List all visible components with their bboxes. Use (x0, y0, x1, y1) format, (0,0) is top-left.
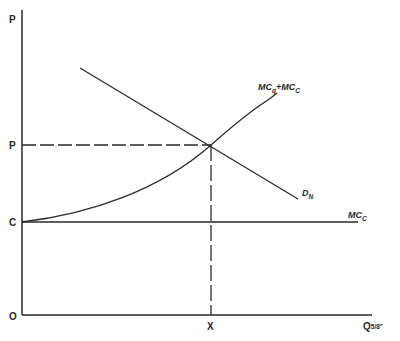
origin-label: O (9, 311, 17, 322)
total-mc-label-part2: MC (281, 82, 295, 92)
x-axis-label: Q5/8" (363, 321, 383, 332)
y-tick-label-c: C (9, 217, 16, 228)
total-mc-curve (22, 93, 277, 222)
mc-c-label-sub: C (362, 215, 367, 222)
diagram-canvas: P P C O X Q5/8" MCq+MCC DN MCC (0, 0, 400, 341)
y-axis-label: P (9, 14, 16, 25)
demand-label-sub: N (309, 193, 314, 200)
y-tick-label-p: P (9, 140, 16, 151)
x-tick-label-x: X (207, 321, 214, 332)
total-mc-label: MCq+MCC (258, 82, 300, 95)
x-axis-label-sub: 5/8" (371, 323, 383, 330)
total-mc-label-sub2: C (295, 87, 300, 94)
total-mc-label-part1: MC (258, 82, 272, 92)
mc-c-label-main: MC (348, 210, 362, 220)
demand-label: DN (302, 188, 314, 200)
mc-c-label: MCC (348, 210, 367, 222)
